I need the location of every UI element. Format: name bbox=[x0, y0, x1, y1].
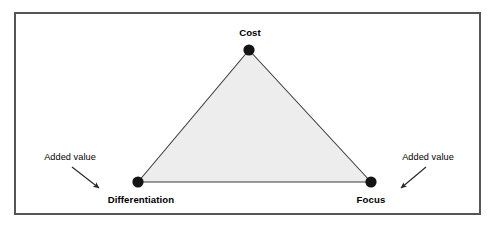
annotation-label-added-value-left: Added value bbox=[44, 153, 96, 162]
added-value-right-arrow-icon bbox=[401, 167, 426, 188]
vertex-node-differentiation bbox=[132, 176, 143, 187]
vertex-node-cost bbox=[243, 44, 254, 55]
diagram-canvas: Cost Differentiation Focus Added value A… bbox=[0, 0, 499, 231]
vertex-label-cost: Cost bbox=[239, 28, 261, 38]
triangle-shape bbox=[138, 50, 371, 182]
annotation-label-added-value-right: Added value bbox=[402, 153, 454, 162]
vertex-label-differentiation: Differentiation bbox=[108, 195, 175, 205]
vertex-label-focus: Focus bbox=[357, 195, 386, 205]
vertex-node-focus bbox=[365, 176, 376, 187]
added-value-left-arrow-icon bbox=[72, 167, 99, 188]
